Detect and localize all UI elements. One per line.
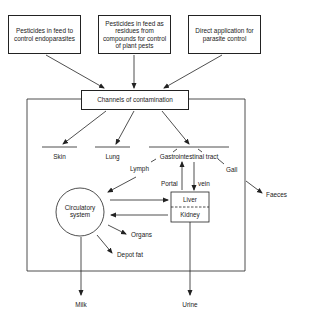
organs-label: Organs — [131, 231, 155, 238]
depot-fat-label: Depot fat — [117, 251, 147, 258]
arrow-depot-fat — [97, 235, 112, 253]
skin-label: Skin — [42, 153, 77, 160]
arrow-faeces — [246, 181, 262, 193]
source-box-plant-pests: Pesticides in feed as residues from comp… — [98, 15, 171, 54]
source-box-direct-application: Direct application for parasite control — [188, 15, 261, 54]
kidney-label: Kidney — [171, 211, 209, 218]
milk-label: Milk — [66, 301, 96, 308]
lung-label: Lung — [95, 153, 130, 160]
gi-tract-label: Gastrointestinal tract — [149, 153, 229, 160]
arrow-organs — [108, 225, 126, 234]
circulatory-label: Circulatory system — [61, 204, 99, 219]
channels-label: Channels of contamination — [97, 96, 173, 103]
vein-label: vein — [198, 180, 214, 187]
source-box-endoparasites: Pesticides in feed to control endoparasi… — [8, 15, 81, 54]
arrow-to-skin — [63, 111, 106, 144]
arrow-to-gi — [162, 111, 189, 144]
arrow-source1-to-channels — [46, 55, 104, 88]
urine-label: Urine — [175, 301, 205, 308]
source-label: Pesticides in feed as residues from comp… — [101, 20, 169, 50]
lymph-label: Lymph — [130, 165, 156, 172]
arrow-lymph — [108, 177, 136, 192]
arrow-to-lung — [116, 111, 134, 144]
portal-label: Portal — [161, 180, 181, 187]
liver-label: Liver — [171, 196, 209, 203]
source-label: Pesticides in feed to control endoparasi… — [14, 27, 76, 42]
channels-box: Channels of contamination — [81, 90, 189, 110]
gall-label: Gall — [226, 166, 240, 173]
arrow-source3-to-channels — [164, 55, 222, 88]
faeces-label: Faeces — [266, 191, 292, 198]
source-label: Direct application for parasite control — [194, 27, 256, 42]
